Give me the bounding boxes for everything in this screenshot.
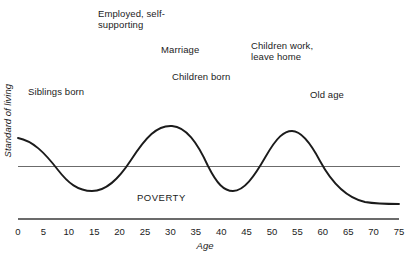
annotation-marriage: Marriage	[161, 44, 199, 55]
x-tick-label: 30	[165, 226, 176, 237]
poverty-line-label: POVERTY	[137, 192, 186, 203]
x-tick-label: 15	[89, 226, 100, 237]
x-tick-label: 65	[343, 226, 354, 237]
standard-of-living-curve	[18, 126, 399, 204]
x-tick-label: 40	[216, 226, 227, 237]
x-axis-title: Age	[0, 240, 410, 251]
annotation-siblings-born: Siblings born	[28, 86, 84, 97]
x-tick-label: 60	[318, 226, 329, 237]
annotation-employed-self-supporting: Employed, self- supporting	[98, 8, 165, 30]
x-tick-label: 0	[15, 226, 20, 237]
annotation-children-born: Children born	[172, 71, 230, 82]
x-tick-label: 10	[64, 226, 75, 237]
x-tick-label: 5	[41, 226, 46, 237]
x-tick-label: 35	[191, 226, 202, 237]
x-tick-label: 70	[368, 226, 379, 237]
x-tick-label: 20	[114, 226, 125, 237]
x-tick-label: 25	[140, 226, 151, 237]
y-axis-title: Standard of living	[2, 84, 13, 157]
chart-canvas	[0, 0, 410, 258]
annotation-old-age: Old age	[310, 89, 344, 100]
x-tick-label: 50	[267, 226, 278, 237]
x-tick-label: 75	[394, 226, 405, 237]
life-cycle-standard-of-living-chart: Standard of living Siblings born Employe…	[0, 0, 410, 258]
annotation-children-work-leave-home: Children work, leave home	[251, 40, 313, 62]
x-tick-label: 55	[292, 226, 303, 237]
x-tick-label: 45	[241, 226, 252, 237]
